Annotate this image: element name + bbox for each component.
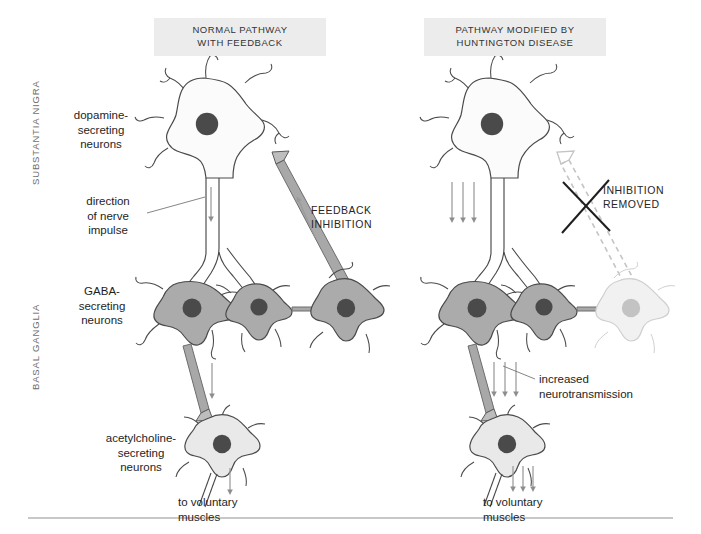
ach-soma-right	[470, 415, 545, 477]
dendrite-group	[135, 46, 289, 168]
region-label-substantia-nigra: SUBSTANTIA NIGRA	[30, 80, 41, 185]
gaba-neuron-left-b	[216, 284, 292, 352]
label-direction-of-nerve-impulse: direction of nerve impulse	[60, 194, 156, 238]
label-dopamine-secreting-neurons: dopamine- secreting neurons	[48, 108, 154, 152]
gaba-to-ach-axon-left	[183, 344, 213, 421]
gaba-neuron-right-b	[501, 284, 577, 352]
gaba-soma-a	[154, 282, 237, 346]
gaba-interneuron-axon-right	[577, 300, 605, 317]
dopamine-nucleus	[196, 113, 218, 135]
gaba-soma-b	[226, 284, 292, 340]
label-acetylcholine-secreting-neurons: acetylcholine- secreting neurons	[78, 431, 204, 475]
gaba-nucleus-right-b	[535, 298, 552, 315]
dopamine-soma-right	[452, 78, 550, 178]
to-muscles-arrows-right	[513, 466, 533, 489]
dopamine-nucleus-right	[481, 113, 503, 135]
gaba-nucleus-a	[183, 299, 202, 318]
panel-huntington-pathway	[420, 46, 675, 507]
label-to-voluntary-muscles-right: to voluntary muscles	[483, 495, 603, 524]
label-inhibition-removed: INHIBITION REMOVED	[603, 183, 695, 211]
label-feedback-inhibition: FEEDBACK INHIBITION	[311, 203, 401, 231]
gaba-nucleus-c	[337, 299, 355, 317]
dopamine-axon-descending	[182, 178, 259, 291]
axon-terminal-right-2	[528, 290, 550, 303]
leader-increased	[503, 366, 535, 379]
axon-terminal-left-1	[180, 291, 205, 303]
gaba-interneuron-axon-left	[292, 300, 320, 317]
gaba-soma-right-b	[511, 284, 577, 340]
degenerated-gaba-neuron	[595, 262, 675, 353]
label-to-voluntary-muscles-left: to voluntary muscles	[178, 495, 298, 524]
gaba-nucleus-right-a	[468, 299, 487, 318]
panel-banner-normal: NORMAL PATHWAY WITH FEEDBACK	[154, 18, 326, 56]
label-gaba-secreting-neurons: GABA- secreting neurons	[48, 284, 156, 328]
dopamine-soma	[167, 78, 265, 178]
region-label-basal-ganglia: BASAL GANGLIA	[30, 304, 41, 390]
label-increased-neurotransmission: increased neurotransmission	[539, 372, 669, 401]
dopamine-axon-descending-right	[467, 178, 544, 291]
gaba-to-ach-axon-right	[468, 344, 498, 421]
gaba-impulse-arrows-right	[494, 362, 516, 394]
degenerated-feedback-axon	[557, 151, 635, 287]
acetylcholine-neuron-right	[461, 405, 550, 486]
gaba-neuron-right-a	[421, 277, 524, 359]
axon-terminal-right-1	[465, 291, 490, 303]
gaba-soma-c	[311, 279, 384, 341]
figure-canvas: NORMAL PATHWAY WITH FEEDBACK PATHWAY MOD…	[0, 0, 701, 534]
degenerated-nucleus	[622, 299, 640, 317]
gaba-neuron-left-c	[310, 262, 390, 353]
ach-nucleus-left	[213, 435, 231, 453]
dopamine-neuron-right	[420, 46, 574, 178]
dopamine-neuron-left	[135, 46, 289, 178]
ach-nucleus-right	[498, 435, 516, 453]
gaba-soma-right-a	[439, 282, 522, 346]
degenerated-soma	[596, 279, 669, 341]
axon-terminal-left-2	[243, 290, 265, 303]
panel-banner-huntington: PATHWAY MODIFIED BY HUNTINGTON DISEASE	[424, 18, 606, 56]
gaba-nucleus-b	[250, 298, 267, 315]
impulse-arrows-right	[452, 182, 474, 220]
